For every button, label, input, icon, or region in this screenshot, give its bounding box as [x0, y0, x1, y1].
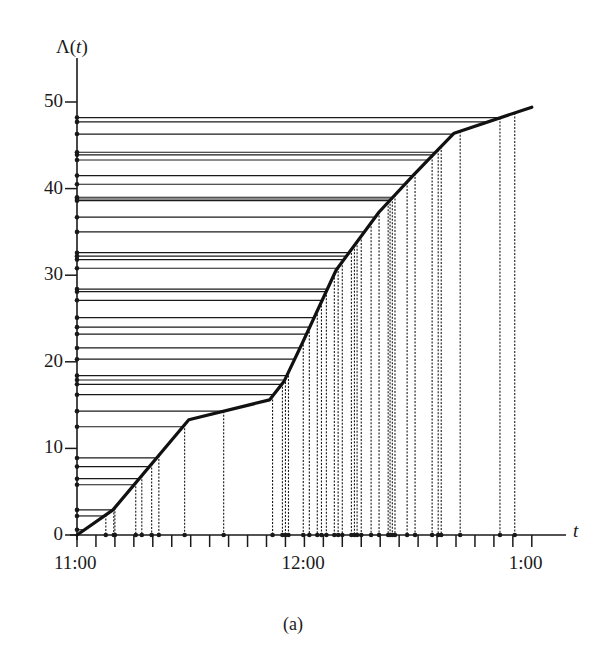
x-axis-label: t — [573, 520, 578, 542]
y-tick-label: 10 — [44, 436, 63, 458]
lambda-curve — [77, 107, 532, 535]
y-axis-label: Λ(t) — [56, 36, 88, 58]
y-tick-label: 30 — [44, 263, 63, 285]
x-tick-label: 12:00 — [281, 552, 324, 574]
event-level-lines — [75, 115, 501, 532]
x-ticks — [77, 535, 532, 547]
y-tick-label: 0 — [54, 523, 64, 545]
axes — [70, 58, 566, 540]
y-tick-label: 50 — [44, 90, 63, 112]
x-tick-label: 1:00 — [509, 552, 543, 574]
y-tick-label: 20 — [44, 350, 63, 372]
y-tick-label: 40 — [44, 177, 63, 199]
x-tick-label: 11:00 — [54, 552, 97, 574]
figure-caption: (a) — [283, 614, 303, 635]
